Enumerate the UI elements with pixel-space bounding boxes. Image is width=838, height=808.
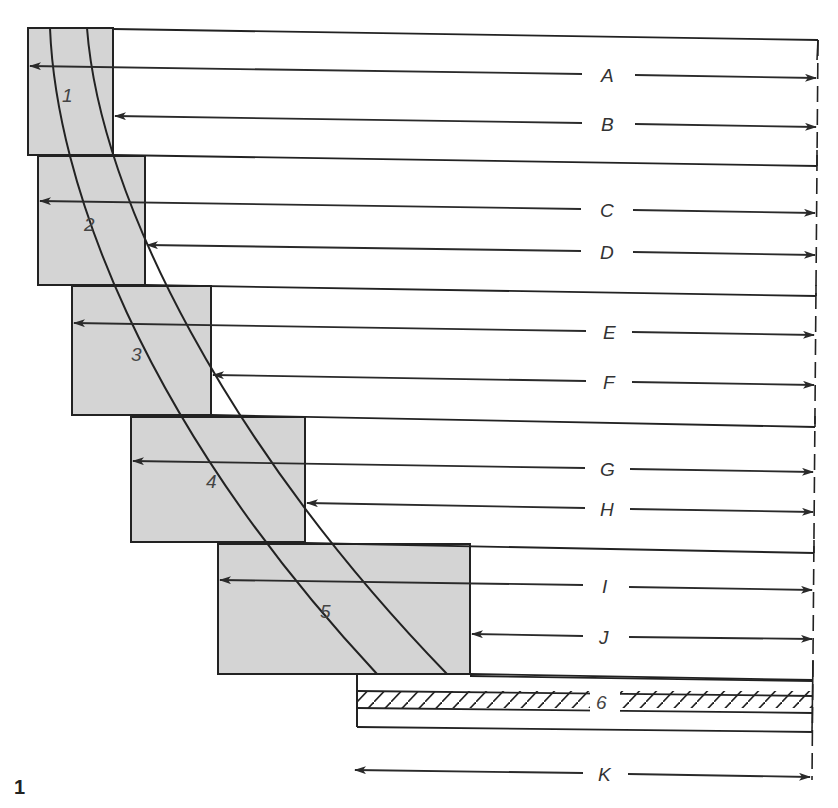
block-label-3: 3 [131,344,142,365]
dimension-label-k: K [598,764,612,785]
dimension-label-b: B [601,114,614,135]
dimension-label-c: C [600,200,614,221]
dimension-b [115,116,816,127]
block-label-2: 2 [83,214,95,235]
right-boundary [812,40,818,780]
dimension-label-e: E [603,322,616,343]
dimension-a [30,66,816,78]
block-4 [131,417,305,542]
dimension-f [213,375,814,385]
plate-6: 6 [357,674,813,732]
stepped-layer-diagram: 6 1 2 3 4 5 [0,0,838,808]
figure-number: 1 [14,776,25,798]
dimension-label-i: I [602,576,608,597]
dimension-label-h: H [600,499,614,520]
block-5 [218,544,470,674]
block-label-4: 4 [206,471,217,492]
block-label-5: 5 [320,601,331,622]
dimension-c [40,201,815,213]
dimension-label-j: J [598,627,609,648]
plate-label: 6 [596,692,607,713]
dimension-k [355,770,810,777]
dimension-j [472,634,812,639]
block-label-1: 1 [62,85,73,106]
dimension-label-a: A [600,65,614,86]
dimension-label-d: D [600,242,614,263]
dimension-d [147,245,815,255]
dimension-h [307,503,813,512]
dimension-label-f: F [603,372,616,393]
dimension-label-g: G [600,459,615,480]
